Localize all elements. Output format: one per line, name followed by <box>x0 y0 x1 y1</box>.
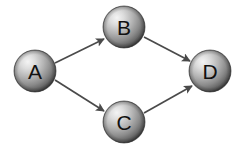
node-b[interactable]: B <box>103 6 145 48</box>
node-c[interactable]: C <box>103 101 145 143</box>
graph-figure: A B C D <box>0 0 241 148</box>
node-d-label: D <box>202 60 217 83</box>
node-a-label: A <box>28 60 42 83</box>
edge-b-to-d <box>144 37 190 61</box>
graph-canvas: A B C D <box>0 0 241 148</box>
node-b-label: B <box>117 16 131 39</box>
edge-a-to-c <box>55 80 104 111</box>
node-c-label: C <box>116 111 131 134</box>
node-a[interactable]: A <box>14 50 56 92</box>
edge-a-to-b <box>55 39 104 63</box>
node-layer: A B C D <box>14 6 231 143</box>
edge-c-to-d <box>144 86 192 113</box>
node-d[interactable]: D <box>189 50 231 92</box>
